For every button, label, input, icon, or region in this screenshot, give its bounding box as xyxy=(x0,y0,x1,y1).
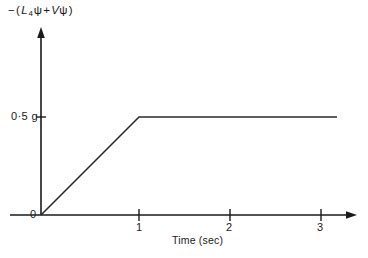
plot-area xyxy=(0,0,368,258)
y-axis-label-term2-variable-group: ˙ ψ xyxy=(59,4,68,16)
x-tick-label-0: 1 xyxy=(136,221,142,233)
y-axis-label-term1-symbol: L xyxy=(21,4,28,16)
x-axis-arrowhead xyxy=(346,211,357,218)
y-axis-label: − ( L 4 ¨ ψ + V ˙ ψ ) xyxy=(8,4,74,16)
x-axis-title: Time (sec) xyxy=(172,234,223,246)
y-axis-label-operator: + xyxy=(42,4,51,16)
y-axis-label-close-paren: ) xyxy=(68,4,74,16)
y-axis-arrowhead xyxy=(37,27,45,38)
y-axis-label-minus: − xyxy=(8,4,15,16)
data-curve-ramp-and-hold xyxy=(41,117,337,215)
y-axis-label-term1-variable-group: ¨ ψ xyxy=(34,4,43,16)
origin-label: 0 xyxy=(30,208,36,220)
y-axis-label-term2-symbol: V xyxy=(51,4,59,16)
y-axis-label-term2-accent: ˙ xyxy=(62,0,66,7)
y-axis-label-term1-accent: ¨ xyxy=(36,0,40,7)
y-tick-label-0: 0·5 g xyxy=(11,110,38,122)
x-tick-label-1: 2 xyxy=(226,221,232,233)
x-tick-label-2: 3 xyxy=(317,221,323,233)
chart-figure: − ( L 4 ¨ ψ + V ˙ ψ ) 0·5 g 0 1 2 3 Time… xyxy=(0,0,368,258)
